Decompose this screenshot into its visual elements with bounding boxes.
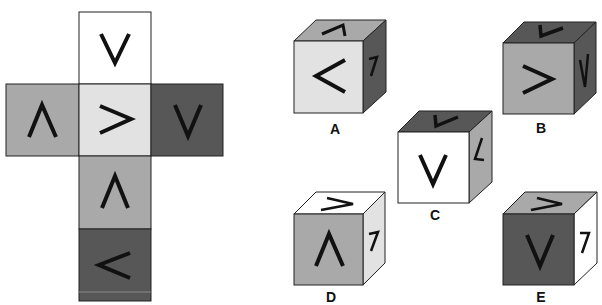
cube-front-face	[294, 41, 363, 113]
puzzle-figure: A B C D E	[0, 0, 602, 305]
option-label-a: A	[330, 121, 340, 137]
net-face-left	[6, 84, 79, 156]
cube-front-face	[503, 43, 574, 114]
net-face-below	[79, 156, 151, 229]
option-cube-a[interactable]: A	[294, 20, 386, 137]
cube-net	[6, 12, 223, 301]
cube-front-face	[398, 132, 469, 203]
option-cube-b[interactable]: B	[503, 22, 596, 136]
cube-front-face	[503, 214, 574, 285]
option-cube-d[interactable]: D	[294, 192, 385, 305]
cube-front-face	[294, 214, 363, 285]
option-label-c: C	[430, 207, 440, 223]
net-face-top	[79, 12, 151, 84]
net-face-center	[79, 84, 151, 156]
option-cube-c[interactable]: C	[398, 111, 492, 223]
net-face-bottom	[79, 229, 151, 301]
option-label-b: B	[536, 120, 546, 136]
option-label-d: D	[326, 289, 336, 305]
option-label-e: E	[536, 289, 545, 305]
option-cube-e[interactable]: E	[503, 192, 597, 305]
net-face-right	[151, 84, 223, 156]
